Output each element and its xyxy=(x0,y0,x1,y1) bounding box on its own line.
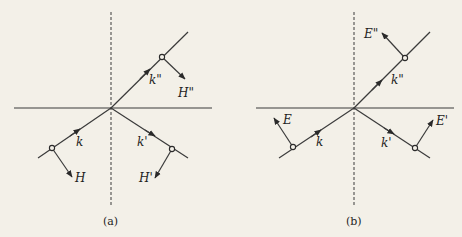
panel-a: k H k" H" k' H' (a) xyxy=(14,12,212,228)
panel-b: k E k" E" k' E' (b) xyxy=(256,12,454,228)
label-e-reflected: E' xyxy=(435,114,448,128)
label-h: H xyxy=(74,171,86,185)
e-transmitted-arrow-icon xyxy=(382,33,405,58)
incident-point xyxy=(49,145,54,150)
k-reflected-arrow-icon xyxy=(384,128,394,134)
label-e-transmitted: E" xyxy=(363,27,378,41)
k-transmitted-arrow-icon xyxy=(372,80,382,90)
h-transmitted-arrow-icon xyxy=(162,57,185,79)
reflection-refraction-figure: k H k" H" k' H' (a) k E k" E" k' E' (b) xyxy=(0,0,462,237)
label-k: k xyxy=(316,135,323,149)
label-k: k xyxy=(76,135,83,149)
caption-a: (a) xyxy=(103,215,118,228)
reflected-point xyxy=(412,145,417,150)
h-incident-arrow-icon xyxy=(52,148,72,177)
label-h-reflected: H' xyxy=(138,171,153,185)
reflected-point xyxy=(169,146,174,151)
transmitted-point xyxy=(402,55,407,60)
label-k-reflected: k' xyxy=(137,135,148,149)
transmitted-point xyxy=(159,54,164,59)
e-reflected-arrow-icon xyxy=(415,120,433,148)
label-k-transmitted: k" xyxy=(391,73,404,87)
h-reflected-arrow-icon xyxy=(155,149,172,178)
caption-b: (b) xyxy=(346,215,362,228)
label-k-reflected: k' xyxy=(381,136,392,150)
incident-point xyxy=(290,144,295,149)
label-h-transmitted: H" xyxy=(177,86,194,100)
label-k-transmitted: k" xyxy=(149,73,162,87)
label-e: E xyxy=(282,113,292,127)
